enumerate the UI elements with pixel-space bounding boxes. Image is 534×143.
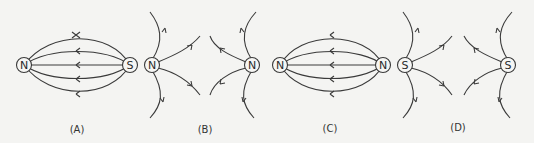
svg-text:N: N [20,59,28,72]
panel-a-left-pole: N [17,58,32,73]
panel-b-right-pole: N [245,58,260,73]
panel-d-left-pole: S [398,58,413,73]
svg-text:S: S [505,59,512,72]
svg-text:N: N [148,59,156,72]
magnetic-field-diagram: N S N N N N S S (A) (B) [0,0,534,143]
svg-text:N: N [276,59,284,72]
panel-d-field-lines [403,12,512,118]
panel-b-field-lines [150,12,256,118]
panel-b-caption: (B) [198,124,213,135]
panel-a-caption: (A) [70,124,85,135]
panel-c-field-lines [280,32,383,97]
panel-b-left-pole: N [145,58,160,73]
panel-d-right-pole: S [501,58,516,73]
panel-c-left-pole: N [273,58,288,73]
panel-c-right-pole: N [376,58,391,73]
svg-text:N: N [248,59,256,72]
panel-d-caption: (D) [450,122,466,133]
panel-a-right-pole: S [123,58,138,73]
svg-text:N: N [379,59,387,72]
panel-a-field-lines [24,32,130,97]
panel-c-caption: (C) [323,123,338,134]
svg-text:S: S [127,59,134,72]
svg-text:S: S [402,59,409,72]
